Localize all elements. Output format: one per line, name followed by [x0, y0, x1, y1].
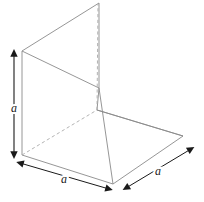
hidden-edges-group — [22, 4, 98, 155]
base-front-label: a — [61, 172, 67, 186]
plate-edges-group — [22, 3, 183, 184]
base-plate-back-edge — [97, 110, 183, 136]
figure-canvas: a a a — [0, 0, 204, 202]
vertical-plate-lower-ridge — [22, 51, 99, 88]
dimension-arrows-group — [14, 53, 191, 189]
hidden-edge-vertical-inner — [97, 4, 98, 110]
height-label: a — [11, 101, 17, 115]
hidden-edge-base-diagonal — [22, 110, 97, 155]
vertical-plate-front-edge — [99, 88, 113, 184]
vertical-plate-outline — [22, 3, 99, 155]
geometry-figure: a a a — [0, 0, 204, 202]
base-side-label: a — [155, 164, 161, 178]
dimension-labels-group: a a a — [11, 101, 161, 186]
